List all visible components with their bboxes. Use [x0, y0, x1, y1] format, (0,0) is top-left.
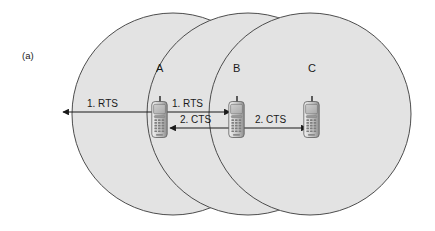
node-label-b: B [233, 62, 240, 74]
phone-icon-c [304, 96, 319, 138]
cts-b-to-c-label: 2. CTS [255, 114, 286, 125]
diagram-svg [0, 0, 435, 231]
panel-label: (a) [22, 50, 34, 61]
node-label-a: A [156, 62, 163, 74]
rts-a-to-b-label: 1. RTS [172, 98, 203, 109]
figure-canvas: 1. RTS1. RTS2. CTS2. CTSABC(a) [0, 0, 435, 231]
phone-icon-a [152, 96, 167, 138]
cts-b-to-a-label: 2. CTS [180, 114, 211, 125]
node-label-c: C [308, 62, 316, 74]
phone-icon-b [229, 96, 244, 138]
rts-left-broadcast-label: 1. RTS [87, 98, 118, 109]
